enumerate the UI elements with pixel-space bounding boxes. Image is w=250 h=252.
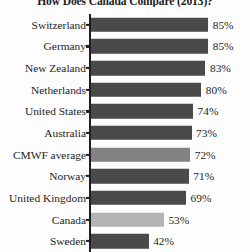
bar-value-label: 72% — [195, 148, 216, 161]
axis-tick — [86, 154, 91, 156]
category-label: Netherlands — [31, 83, 86, 96]
bar-row: Germany85% — [0, 36, 250, 58]
bar-row: Netherlands80% — [0, 79, 250, 101]
bar-row: Norway71% — [0, 165, 250, 187]
bar-value-label: 69% — [191, 191, 212, 204]
bar-value-label: 80% — [206, 83, 227, 96]
bar-row: Australia73% — [0, 122, 250, 144]
bar — [91, 212, 164, 227]
axis-tick — [86, 89, 91, 91]
bar-row: New Zealand83% — [0, 57, 250, 79]
category-label: Switzerland — [32, 18, 86, 31]
bar-row: United States74% — [0, 101, 250, 123]
bar-value-label: 85% — [213, 18, 234, 31]
bar — [91, 169, 189, 184]
bar-value-label: 73% — [196, 126, 217, 139]
bar-value-label: 53% — [168, 213, 189, 226]
category-label: Canada — [52, 213, 86, 226]
axis-tick — [86, 132, 91, 134]
axis-tick — [86, 45, 91, 47]
chart-title: How Does Canada Compare (2013)? — [0, 0, 250, 7]
axis-tick — [86, 175, 91, 177]
bar — [91, 61, 206, 76]
bar — [91, 191, 187, 206]
bar — [91, 39, 209, 54]
bar-row: Canada53% — [0, 209, 250, 231]
category-label: CMWF average — [13, 148, 86, 161]
category-label: United States — [25, 105, 86, 118]
category-label: Germany — [44, 40, 86, 53]
category-label: Norway — [49, 170, 86, 183]
axis-tick — [86, 197, 91, 199]
bar-row: Sweden42% — [0, 230, 250, 252]
bar-value-label: 83% — [210, 62, 231, 75]
axis-tick — [86, 24, 91, 26]
category-label: Australia — [44, 126, 86, 139]
axis-tick — [86, 240, 91, 242]
plot-area: Switzerland85%Germany85%New Zealand83%Ne… — [0, 14, 250, 252]
bar — [91, 104, 193, 119]
bar-value-label: 71% — [193, 170, 214, 183]
bar — [91, 18, 209, 33]
bar-row: Switzerland85% — [0, 14, 250, 36]
axis-tick — [86, 218, 91, 220]
bar — [91, 234, 149, 249]
category-label: United Kingdom — [9, 191, 86, 204]
axis-tick — [86, 67, 91, 69]
bar-row: United Kingdom69% — [0, 187, 250, 209]
bar-chart: How Does Canada Compare (2013)? Switzerl… — [0, 0, 250, 252]
bar — [91, 82, 202, 97]
bar — [91, 147, 191, 162]
bar-value-label: 85% — [213, 40, 234, 53]
bar-value-label: 74% — [197, 105, 218, 118]
category-label: Sweden — [50, 235, 86, 248]
bar — [91, 126, 192, 141]
bar-row: CMWF average72% — [0, 144, 250, 166]
category-label: New Zealand — [25, 62, 86, 75]
axis-tick — [86, 110, 91, 112]
bar-value-label: 42% — [153, 235, 174, 248]
